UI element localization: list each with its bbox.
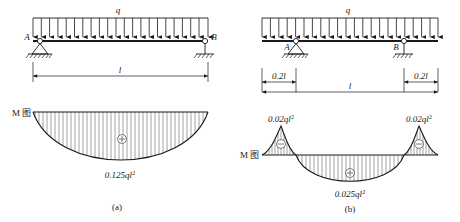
figure-canvas: q A <box>0 0 460 222</box>
load-arrows-b <box>262 18 438 37</box>
support-b-right-label: B <box>393 42 399 52</box>
moment-value-b-mid: 0.025ql2 <box>335 189 365 199</box>
moment-diagram-label-a: M 图 <box>12 108 31 118</box>
panel-a: q A <box>12 5 217 212</box>
moment-diagram-label-b: M 图 <box>240 150 259 160</box>
moment-value-b-left: 0.02ql2 <box>268 114 294 124</box>
overhang-dimension-left: 0.2l <box>262 68 296 92</box>
moment-value-a-mid: 0.125ql2 <box>105 170 135 180</box>
overhang-left-label: 0.2l <box>272 71 286 81</box>
span-label-a: l <box>119 65 122 75</box>
span-dimension-a: l <box>33 62 208 82</box>
sign-mark-positive-b-mid <box>346 169 355 178</box>
sign-mark-negative-b-left <box>277 140 286 149</box>
support-a-right: B <box>194 32 217 58</box>
moment-value-b-right: 0.02ql2 <box>406 114 432 124</box>
sign-mark-positive-a <box>118 135 127 144</box>
overhang-dimension-right: 0.2l <box>404 68 438 92</box>
span-label-b: l <box>349 81 352 91</box>
support-a-right-label: B <box>211 32 217 42</box>
moment-diagram-a: 0.125ql2 <box>33 108 208 180</box>
load-arrows-a <box>33 18 208 37</box>
panel-caption-b: (b) <box>345 204 356 214</box>
overhang-right-label: 0.2l <box>414 71 428 81</box>
load-label-b: q <box>346 5 351 15</box>
support-a-left-label: A <box>23 32 30 42</box>
support-a-left: A <box>23 32 52 58</box>
support-b-left-label: A <box>283 42 290 52</box>
load-label-a: q <box>116 5 121 15</box>
panel-caption-a: (a) <box>112 202 122 212</box>
sign-mark-negative-b-right <box>415 140 424 149</box>
moment-diagram-b: 0.02ql2 0.02ql2 0.025ql2 <box>262 114 438 199</box>
panel-b: q A <box>240 5 438 214</box>
span-dimension-b: l <box>262 81 438 92</box>
